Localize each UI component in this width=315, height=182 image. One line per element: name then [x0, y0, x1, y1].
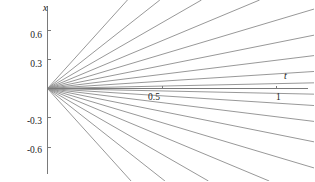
solution-line — [48, 0, 160, 89]
y-tick-label--0.6: -0.6 — [8, 146, 42, 156]
y-axis-label: x — [43, 3, 47, 13]
y-tick-label-0.6: 0.6 — [12, 31, 42, 41]
solution-lines-group — [48, 0, 315, 181]
plot-canvas: x t 0.6 0.3 -0.3 -0.6 0.5 1 — [0, 0, 314, 181]
x-tick-label-1: 1 — [276, 93, 281, 103]
solution-line — [48, 89, 315, 142]
solution-line — [48, 89, 209, 182]
solution-line — [48, 89, 315, 168]
solution-line — [48, 35, 315, 88]
axes-group — [47, 6, 308, 174]
x-tick-label-0.5: 0.5 — [148, 93, 160, 103]
y-tick-label--0.3: -0.3 — [8, 117, 42, 127]
solution-line — [48, 0, 202, 89]
line-family-svg — [0, 0, 314, 181]
solution-line — [48, 9, 315, 88]
y-tick-label-0.3: 0.3 — [12, 60, 42, 70]
x-axis-label: t — [284, 71, 287, 81]
